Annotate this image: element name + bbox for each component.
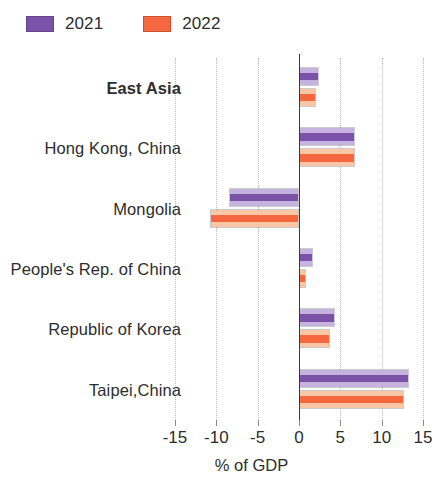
x-axis-title-text: % of GDP	[215, 456, 288, 474]
x-tick	[382, 420, 383, 426]
category-label: Mongolia	[113, 199, 181, 218]
category-label: Hong Kong, China	[45, 139, 181, 158]
bar-band-bottom	[300, 261, 312, 266]
bar-band-core	[300, 73, 318, 81]
legend-swatch-2021	[26, 16, 54, 32]
bar-band-core	[300, 154, 354, 162]
x-tick	[423, 420, 424, 426]
bar-rows: East AsiaHong Kong, ChinaMongoliaPeople'…	[0, 58, 431, 420]
x-tick	[340, 420, 341, 426]
legend-swatch-2022	[143, 16, 171, 32]
bar-2022	[299, 88, 316, 107]
category-label: People's Rep. of China	[11, 260, 181, 279]
x-tick-label: 10	[372, 428, 391, 448]
bar-group: Republic of Korea	[0, 299, 431, 359]
bar-band-bottom	[300, 101, 315, 106]
bar-band-core	[300, 133, 354, 141]
bar-band-core	[300, 254, 312, 262]
bar-band-bottom	[300, 80, 318, 85]
bar-2022	[299, 148, 355, 167]
bar-chart: East AsiaHong Kong, ChinaMongoliaPeople'…	[0, 48, 431, 478]
x-tick-label: 15	[414, 428, 432, 448]
x-tick-label: 5	[336, 428, 345, 448]
x-tick	[258, 420, 259, 426]
plot-area: East AsiaHong Kong, ChinaMongoliaPeople'…	[0, 58, 431, 420]
bar-band-core	[300, 314, 334, 322]
legend-label-2022: 2022	[182, 14, 220, 34]
bar-band-core	[230, 194, 298, 202]
x-tick-label: -10	[204, 428, 229, 448]
x-axis-title: % of GDP	[0, 456, 431, 475]
category-label: Taipei,China	[89, 380, 181, 399]
bar-group: East Asia	[0, 58, 431, 118]
bar-2021	[299, 248, 313, 267]
bar-band-bottom	[300, 322, 334, 327]
x-tick-label: -5	[250, 428, 265, 448]
bar-2021	[299, 127, 355, 146]
bar-group: Taipei,China	[0, 360, 431, 420]
bar-2021	[299, 308, 335, 327]
chart-legend: 2021 2022	[26, 10, 220, 38]
bar-band-bottom	[300, 343, 329, 348]
bar-band-core	[211, 215, 298, 223]
category-label: East Asia	[106, 79, 181, 98]
bar-2021	[299, 67, 319, 86]
bar-band-core	[300, 275, 305, 283]
bar-band-bottom	[230, 201, 298, 206]
legend-label-2021: 2021	[65, 14, 103, 34]
legend-item-2021: 2021	[26, 14, 103, 34]
x-axis: -15-10-5051015 % of GDP	[0, 420, 431, 478]
bar-group: Mongolia	[0, 179, 431, 239]
bar-band-core	[300, 375, 408, 383]
bar-2021	[299, 369, 409, 388]
bar-2021	[229, 188, 299, 207]
bar-group: Hong Kong, China	[0, 118, 431, 178]
x-tick-label: 0	[294, 428, 303, 448]
x-tick	[175, 420, 176, 426]
bar-band-bottom	[300, 403, 403, 408]
bar-2022	[299, 329, 330, 348]
bar-band-bottom	[300, 382, 408, 387]
category-label: Republic of Korea	[48, 320, 181, 339]
bar-2022	[210, 209, 299, 228]
bar-band-core	[300, 335, 329, 343]
bar-band-bottom	[211, 222, 298, 227]
bar-band-bottom	[300, 162, 354, 167]
bar-band-bottom	[300, 141, 354, 146]
bar-group: People's Rep. of China	[0, 239, 431, 299]
bar-2022	[299, 269, 306, 288]
bar-band-bottom	[300, 282, 305, 287]
bar-band-core	[300, 396, 403, 404]
x-tick	[216, 420, 217, 426]
x-tick-label: -15	[163, 428, 188, 448]
zero-axis-line	[299, 54, 300, 424]
x-tick	[299, 420, 300, 426]
bar-band-core	[300, 94, 315, 102]
bar-2022	[299, 390, 404, 409]
legend-item-2022: 2022	[143, 14, 220, 34]
